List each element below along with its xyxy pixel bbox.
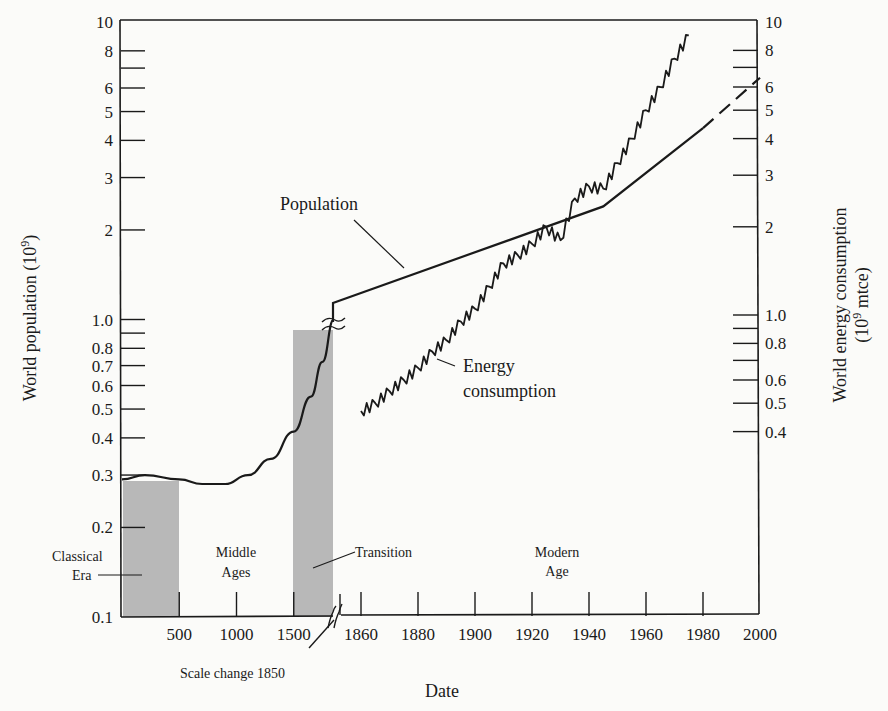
y-left-tick-label: 0.2: [92, 518, 113, 537]
x-tick-label: 1900: [458, 625, 492, 644]
modern-age-label-2: Age: [545, 564, 568, 579]
y-left-tick-label: 0.6: [92, 377, 113, 396]
energy-leader: [437, 359, 455, 366]
x-tick-label: 1940: [572, 625, 606, 644]
axes: [120, 20, 759, 617]
y-right-tick-label: 3: [765, 166, 774, 185]
modern-age-label: Modern: [535, 545, 579, 560]
y-right-tick-label: 0.8: [765, 334, 786, 353]
y-left-tick-label: 6: [105, 79, 114, 98]
y-right-tick-label: 4: [765, 130, 774, 149]
right-y-tick-labels: 108654321.00.80.60.50.4: [765, 13, 787, 442]
bottom-axis-ancient: [121, 616, 333, 617]
y-right-tick-label: 8: [765, 41, 774, 60]
right-axis: [757, 20, 759, 614]
scale-change-label: Scale change 1850: [180, 666, 285, 681]
x-tick-label: 1980: [686, 625, 720, 644]
y-left-tick-label: 0.3: [92, 466, 113, 485]
left-y-tick-labels: 108654321.00.80.70.60.50.40.30.20.1: [92, 13, 114, 627]
y-left-tick-label: 0.4: [92, 429, 114, 448]
x-tick-labels: 5001000150018601880190019201940196019802…: [167, 625, 778, 644]
energy-label-line2: consumption: [463, 381, 556, 401]
x-tick-label: 1860: [344, 625, 378, 644]
y-right-tick-label: 0.4: [765, 423, 787, 442]
middle-ages-label-2: Ages: [222, 565, 251, 580]
middle-ages-label: Middle: [216, 545, 256, 560]
y-right-axis-title: World energy consumption: [830, 207, 850, 402]
x-tick-label: 1500: [277, 625, 311, 644]
y-left-axis-title: World population (109): [18, 235, 41, 402]
y-left-tick-label: 8: [105, 42, 114, 61]
population-energy-chart: 108654321.00.80.70.60.50.40.30.20.1 1086…: [0, 0, 888, 711]
left-y-ticks: [121, 51, 145, 528]
left-axis: [120, 20, 121, 617]
transition-label: Transition: [355, 545, 412, 560]
classical-era-shade: [123, 481, 179, 617]
population-projection-dashed: [703, 78, 760, 128]
x-tick-label: 1960: [629, 625, 663, 644]
y-left-tick-label: 0.1: [92, 608, 113, 627]
y-right-tick-label: 10: [765, 13, 782, 32]
y-right-tick-label: 0.6: [765, 371, 786, 390]
y-right-tick-label: 5: [765, 101, 774, 120]
y-left-tick-label: 5: [105, 103, 114, 122]
bottom-axis-modern: [341, 614, 759, 615]
y-left-tick-label: 1.0: [92, 311, 113, 330]
y-left-tick-label: 0.5: [92, 400, 113, 419]
y-left-tick-label: 10: [96, 13, 113, 32]
population-line-modern: [333, 128, 703, 322]
y-left-tick-label: 4: [105, 131, 114, 150]
y-left-tick-label: 2: [105, 221, 114, 240]
x-tick-label: 500: [167, 625, 193, 644]
x-axis-title: Date: [425, 681, 459, 701]
energy-label-line1: Energy: [463, 356, 515, 376]
y-left-tick-label: 0.7: [92, 357, 114, 376]
population-label: Population: [280, 194, 358, 214]
y-right-tick-label: 2: [765, 218, 774, 237]
y-left-tick-label: 3: [105, 169, 114, 188]
y-right-tick-label: 6: [765, 78, 774, 97]
y-right-tick-label: 1.0: [765, 306, 786, 325]
y-right-tick-label: 0.5: [765, 394, 786, 413]
x-tick-label: 1920: [515, 625, 549, 644]
x-tick-label: 1880: [401, 625, 435, 644]
transition-shade: [293, 330, 333, 617]
classical-era-label: Classical: [52, 549, 103, 564]
x-tick-label: 1000: [220, 625, 254, 644]
classical-era-label-2: Era: [72, 568, 92, 583]
energy-consumption-line: [361, 35, 689, 416]
y-left-tick-label: 0.8: [92, 339, 113, 358]
x-tick-label: 2000: [743, 625, 777, 644]
population-leader: [354, 220, 404, 268]
right-y-ticks: [733, 50, 758, 431]
y-right-axis-subtitle: (109 mtce): [850, 267, 873, 342]
x-ticks: [179, 592, 703, 616]
